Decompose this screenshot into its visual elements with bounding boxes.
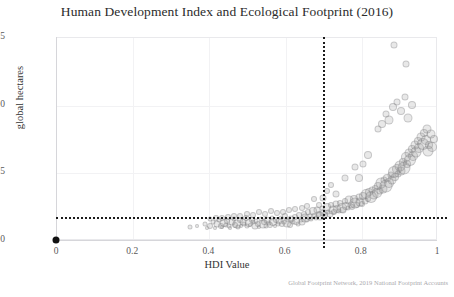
gridline-vertical <box>362 38 363 239</box>
scatter-chart: Human Development Index and Ecological F… <box>0 0 454 297</box>
x-tick-label: 0 <box>54 246 59 256</box>
y-axis-line <box>56 37 57 240</box>
gridline-horizontal <box>57 173 436 174</box>
gridline-vertical <box>133 38 134 239</box>
source-note: Global Footprint Network, 2019 National … <box>288 279 448 286</box>
origin-marker <box>53 237 60 244</box>
x-axis-line <box>56 240 437 241</box>
plot-area <box>56 37 437 240</box>
x-axis-title: HDI Value <box>0 259 454 270</box>
y-tick-label: 5 <box>0 166 5 176</box>
biocapacity-threshold-line <box>56 217 447 219</box>
gridline-vertical <box>209 38 210 239</box>
chart-title: Human Development Index and Ecological F… <box>0 4 454 20</box>
y-tick-label: 0 <box>0 234 5 244</box>
y-tick-label: 10 <box>0 99 5 109</box>
gridline-horizontal <box>57 106 436 107</box>
x-tick-label: 0.8 <box>355 246 367 256</box>
x-tick-label: 0.4 <box>202 246 214 256</box>
y-axis-title: global hectares <box>14 43 25 153</box>
gridline-vertical <box>286 38 287 239</box>
x-tick-label: 1 <box>435 246 440 256</box>
y-tick-label: 15 <box>0 31 5 41</box>
x-tick-label: 0.6 <box>279 246 291 256</box>
x-tick-label: 0.2 <box>126 246 138 256</box>
